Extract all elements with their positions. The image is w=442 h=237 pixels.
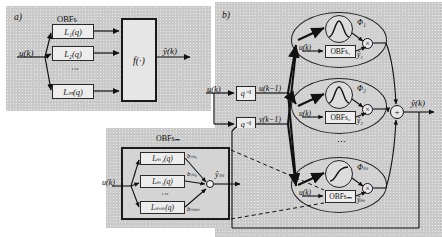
figure-root: a) OBFs u(k) L₁(q) L₂(q) Lₘ(q) ⋮ f(·) ŷ(… xyxy=(0,0,442,237)
validity-function-2-plot xyxy=(325,81,353,109)
panel-a-filter-L1-label: L₁(q) xyxy=(64,27,82,37)
detail-filter-LM2-label: Lₘ₂(q) xyxy=(152,177,173,186)
delay-u-output-label: u(k−1) xyxy=(259,84,281,93)
obfs-block-2: OBFs₂ xyxy=(325,111,356,124)
product-node-M: × xyxy=(362,183,373,194)
local-model-2-output-label: ŷ₂ xyxy=(357,116,363,125)
detail-filter-LM1-label: Lₘ₁(q) xyxy=(152,154,173,163)
panel-a-obfs-title: OBFs xyxy=(57,14,77,24)
panel-a-output-label: ŷ(k) xyxy=(163,46,177,56)
local-model-1-output-label: ŷ₁ xyxy=(357,50,363,59)
local-model-M-input-label: u(k) xyxy=(299,188,311,197)
panel-a-filter-L2: L₂(q) xyxy=(52,46,94,61)
delay-block-u: q⁻¹ xyxy=(236,86,256,101)
validity-function-M-label: Φₘ xyxy=(357,163,368,172)
obfs-block-M: OBFsₘ xyxy=(325,190,356,203)
panel-a-filter-Lm-label: Lₘ(q) xyxy=(63,87,83,97)
panel-a-filter-L2-label: L₂(q) xyxy=(64,49,82,59)
panel-detail-input-label: u(k) xyxy=(102,178,115,187)
validity-function-M-plot xyxy=(325,160,353,188)
summation-node-symbol: + xyxy=(394,108,399,117)
local-model-1-input-label: u(k) xyxy=(299,43,311,52)
panel-b-tag: b) xyxy=(222,10,230,20)
panel-detail-output-label: ŷₘ xyxy=(215,170,224,179)
product-node-1-symbol: × xyxy=(365,40,370,48)
validity-function-1-plot xyxy=(325,15,353,43)
panel-a-nonlinearity-block: f(·) xyxy=(121,18,157,102)
summation-node: + xyxy=(390,105,404,119)
detail-filter-LMm: Lₘₘ(q) xyxy=(140,201,185,214)
local-model-M-output-label: ŷₘ xyxy=(357,195,365,204)
obfs-block-1-label: OBFs₁ xyxy=(330,47,350,56)
sigmoid-curve-icon xyxy=(327,162,351,186)
panel-a-input-label: u(k) xyxy=(19,48,34,58)
validity-function-1-label: Φ₁ xyxy=(357,18,366,27)
detail-filter-LMm-label: Lₘₘ(q) xyxy=(151,203,174,212)
product-node-M-symbol: × xyxy=(365,185,370,193)
detail-filter-LM2: Lₘ₂(q) xyxy=(140,175,185,188)
product-node-2-symbol: × xyxy=(365,106,370,114)
detail-weight-bM1: bₘ₁ xyxy=(187,152,197,160)
panel-b-output-label: ŷ(k) xyxy=(411,98,425,108)
detail-filter-LM1: Lₘ₁(q) xyxy=(140,152,185,165)
delay-y-output-label: y(k−1) xyxy=(259,115,281,124)
delay-block-u-label: q⁻¹ xyxy=(241,89,251,98)
panel-a-tag: a) xyxy=(14,12,22,22)
panel-b-input-label: u(k) xyxy=(207,84,221,94)
local-model-2-input-label: u(k) xyxy=(299,109,311,118)
obfs-block-1: OBFs₁ xyxy=(325,45,356,58)
validity-function-2-label: Φ₂ xyxy=(357,84,366,93)
panel-a-nonlinearity-label: f(·) xyxy=(133,55,145,66)
product-node-2: × xyxy=(362,104,373,115)
detail-sum-node xyxy=(206,180,214,188)
obfs-block-M-label: OBFsₘ xyxy=(329,192,352,201)
product-node-1: × xyxy=(362,38,373,49)
panel-a-vertical-dots: ⋮ xyxy=(71,65,79,74)
panel-detail-title: OBFsₘ xyxy=(156,134,180,143)
detail-weight-bM2: bₘ₂ xyxy=(187,170,197,178)
panel-detail-vertical-dots: ⋮ xyxy=(161,190,169,199)
gaussian-curve-icon xyxy=(327,17,351,41)
panel-a-filter-Lm: Lₘ(q) xyxy=(52,84,94,99)
panel-b-vertical-dots: ⋮ xyxy=(336,137,345,147)
gaussian-curve-icon xyxy=(327,83,351,107)
panel-a-filter-L1: L₁(q) xyxy=(52,24,94,39)
panel-a-background xyxy=(6,6,211,111)
obfs-block-2-label: OBFs₂ xyxy=(330,113,350,122)
detail-weight-bMm: bₘₘ xyxy=(187,205,199,213)
